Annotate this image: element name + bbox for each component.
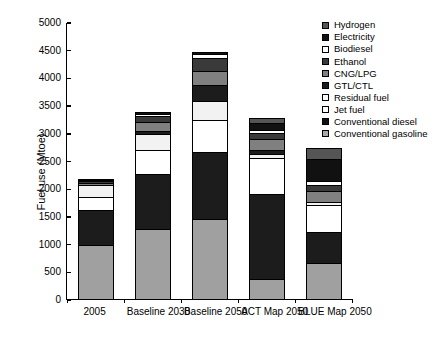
bar-segment[interactable] xyxy=(79,246,113,299)
bar-segment[interactable] xyxy=(307,149,341,160)
y-axis-tick-label: 1000 xyxy=(39,240,67,250)
legend-item-label: Conventional diesel xyxy=(334,117,417,127)
bar-segment[interactable] xyxy=(250,140,284,151)
legend-item-label: Conventional gasoline xyxy=(334,129,427,139)
y-axis-tick-label: 2000 xyxy=(39,184,67,194)
bar-segment[interactable] xyxy=(193,102,227,121)
bar-segment[interactable] xyxy=(307,264,341,299)
legend-swatch-icon xyxy=(322,82,329,89)
stacked-bar[interactable] xyxy=(306,148,342,299)
stacked-bar[interactable] xyxy=(78,179,114,299)
legend-item[interactable]: Jet fuel xyxy=(322,104,427,116)
legend-item[interactable]: Residual fuel xyxy=(322,92,427,104)
legend-item[interactable]: Ethanol xyxy=(322,55,427,67)
bar-segment[interactable] xyxy=(136,230,170,299)
x-axis-tickmark xyxy=(352,299,353,303)
legend-item[interactable]: Conventional gasoline xyxy=(322,128,427,140)
x-axis-tick-label: Baseline 2030 xyxy=(127,306,177,317)
legend-swatch-icon xyxy=(322,130,329,137)
x-axis-tick-label: BLUE Map 2050 xyxy=(298,306,348,317)
bar-segment[interactable] xyxy=(193,121,227,154)
y-axis-tick-label: 3500 xyxy=(39,101,67,111)
legend-item-label: Ethanol xyxy=(334,57,366,67)
bar-segment[interactable] xyxy=(193,86,227,102)
bar-segment[interactable] xyxy=(307,233,341,264)
legend-item-label: GTL/CTL xyxy=(334,81,373,91)
legend-item-label: Hydrogen xyxy=(334,20,375,30)
bar-segment[interactable] xyxy=(307,192,341,203)
bar-series-container xyxy=(67,23,352,299)
stacked-bar[interactable] xyxy=(135,112,171,299)
legend-swatch-icon xyxy=(322,58,329,65)
bar-segment[interactable] xyxy=(193,59,227,72)
bar-segment[interactable] xyxy=(193,153,227,219)
x-axis-tickmark xyxy=(238,299,239,303)
legend-swatch-icon xyxy=(322,22,329,29)
bar-segment[interactable] xyxy=(307,160,341,182)
bar-segment[interactable] xyxy=(193,220,227,299)
bar-segment[interactable] xyxy=(250,195,284,280)
x-axis-tickmark xyxy=(67,299,68,303)
x-axis-labels: 2005Baseline 2030Baseline 2050ACT Map 20… xyxy=(66,306,352,317)
legend-swatch-icon xyxy=(322,46,329,53)
legend-item[interactable]: Electricity xyxy=(322,31,427,43)
x-axis-tick-label: ACT Map 2050 xyxy=(241,306,291,317)
y-axis-tick-label: 5000 xyxy=(39,18,67,28)
chart-legend: HydrogenElectricityBiodieselEthanolCNG/L… xyxy=(322,19,427,140)
bar-group[interactable] xyxy=(71,23,121,299)
legend-swatch-icon xyxy=(322,118,329,125)
x-axis-tickmark xyxy=(124,299,125,303)
legend-item[interactable]: Conventional diesel xyxy=(322,116,427,128)
bar-segment[interactable] xyxy=(136,151,170,175)
y-axis-tick-label: 3000 xyxy=(39,129,67,139)
bar-segment[interactable] xyxy=(136,175,170,229)
legend-item-label: CNG/LPG xyxy=(334,69,377,79)
x-axis-tickmark xyxy=(181,299,182,303)
legend-swatch-icon xyxy=(322,70,329,77)
bar-segment[interactable] xyxy=(250,280,284,299)
legend-swatch-icon xyxy=(322,106,329,113)
bar-segment[interactable] xyxy=(250,124,284,131)
bar-group[interactable] xyxy=(185,23,235,299)
x-axis-tickmark xyxy=(295,299,296,303)
y-axis-tick-label: 1500 xyxy=(39,212,67,222)
bar-segment[interactable] xyxy=(79,198,113,212)
legend-item-label: Biodiesel xyxy=(334,44,373,54)
bar-segment[interactable] xyxy=(193,72,227,86)
y-axis-tick-label: 500 xyxy=(44,267,67,277)
bar-segment[interactable] xyxy=(307,206,341,233)
bar-group[interactable] xyxy=(128,23,178,299)
bar-segment[interactable] xyxy=(79,186,113,198)
stacked-bar[interactable] xyxy=(192,52,228,299)
legend-swatch-icon xyxy=(322,34,329,41)
legend-item-label: Jet fuel xyxy=(334,105,365,115)
stacked-bar[interactable] xyxy=(249,118,285,299)
bar-segment[interactable] xyxy=(136,123,170,132)
bar-segment[interactable] xyxy=(250,159,284,196)
legend-item-label: Electricity xyxy=(334,32,375,42)
legend-item[interactable]: GTL/CTL xyxy=(322,79,427,91)
plot-area: 5000450040003500300025002000150010005000 xyxy=(66,23,352,300)
bar-segment[interactable] xyxy=(79,211,113,245)
x-axis-tick-label: 2005 xyxy=(70,306,120,317)
legend-item[interactable]: Biodiesel xyxy=(322,43,427,55)
x-axis-tick-label: Baseline 2050 xyxy=(184,306,234,317)
legend-item[interactable]: CNG/LPG xyxy=(322,67,427,79)
y-axis-tick-label: 4500 xyxy=(39,46,67,56)
bar-segment[interactable] xyxy=(136,135,170,151)
y-axis-tick-label: 4000 xyxy=(39,73,67,83)
bar-group[interactable] xyxy=(242,23,292,299)
y-axis-tick-label: 2500 xyxy=(39,157,67,167)
legend-item[interactable]: Hydrogen xyxy=(322,19,427,31)
stacked-bar-chart: Fuel use (Mtoe) 500045004000350030002500… xyxy=(0,0,432,343)
y-axis-tick-label: 0 xyxy=(55,295,67,305)
y-axis-title: Fuel use (Mtoe) xyxy=(35,133,47,210)
legend-item-label: Residual fuel xyxy=(334,93,389,103)
legend-swatch-icon xyxy=(322,94,329,101)
